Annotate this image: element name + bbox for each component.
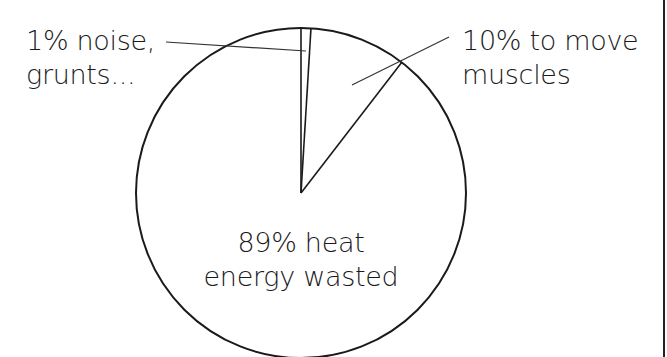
label-heat-line2: energy wasted	[190, 260, 412, 294]
label-noise: 1% noise, grunts...	[26, 24, 155, 92]
label-muscles-line2: muscles	[462, 58, 638, 92]
label-muscles: 10% to move muscles	[462, 24, 638, 92]
label-heat: 89% heat energy wasted	[190, 226, 412, 294]
frame-border-right	[663, 0, 665, 357]
label-heat-line1: 89% heat	[190, 226, 412, 260]
label-noise-line1: 1% noise,	[26, 24, 155, 58]
label-muscles-line1: 10% to move	[462, 24, 638, 58]
label-noise-line2: grunts...	[26, 58, 155, 92]
